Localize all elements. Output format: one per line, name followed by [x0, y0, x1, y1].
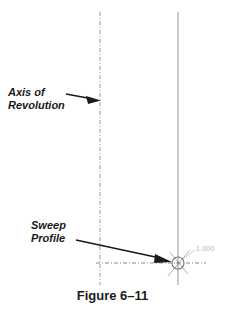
sweep-profile-label-line1: Sweep — [31, 219, 66, 231]
sweep-profile-marker-center — [177, 262, 180, 265]
sweep-profile-label: SweepProfile — [31, 219, 66, 244]
sweep-profile-label-line2: Profile — [31, 232, 65, 244]
axis-of-revolution-arrowhead — [86, 96, 101, 104]
sweep-profile-arrowhead — [154, 254, 172, 263]
engineering-drawing-canvas — [0, 0, 225, 309]
axis-of-revolution-label: Axis ofRevolution — [8, 86, 65, 111]
figure-caption: Figure 6–11 — [0, 288, 225, 303]
figure-container: Axis ofRevolution SweepProfile 1.000 Fig… — [0, 0, 225, 309]
axis-of-revolution-label-line2: Revolution — [8, 99, 65, 111]
sweep-profile-leader-line — [76, 240, 160, 258]
axis-of-revolution-label-line1: Axis of — [8, 86, 45, 98]
diameter-dimension-value: 1.000 — [196, 245, 215, 252]
